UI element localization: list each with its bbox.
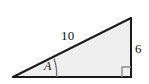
right-triangle-figure: 10 6 A: [0, 0, 149, 84]
angle-a-label: A: [44, 60, 51, 72]
hypotenuse-length-label: 10: [61, 29, 75, 42]
opposite-side-length-label: 6: [135, 42, 142, 55]
